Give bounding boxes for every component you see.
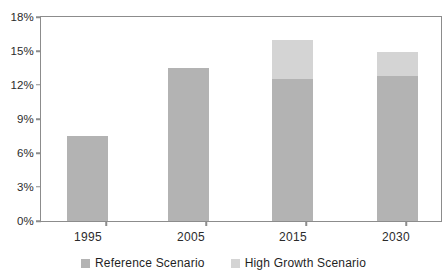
y-tick-label: 0% (17, 215, 34, 227)
bar-segment (377, 52, 418, 76)
legend-label: High Growth Scenario (245, 256, 366, 270)
legend: Reference Scenario High Growth Scenario (0, 256, 447, 270)
chart-screenshot: 18% 15% 12% 9% 6% 3% (0, 0, 447, 277)
y-tick-label: 6% (17, 147, 34, 159)
y-tick-label: 3% (17, 181, 34, 193)
bar-2005[interactable] (168, 68, 209, 221)
bar-segment (168, 68, 209, 221)
y-tick-mark (36, 118, 41, 120)
x-axis-label-2015: 2015 (279, 230, 307, 244)
x-tick-mark (405, 221, 407, 226)
y-tick-mark (36, 50, 41, 52)
y-tick-label: 9% (17, 113, 34, 125)
x-axis-label-2005: 2005 (177, 230, 205, 244)
x-tick-mark (105, 221, 107, 226)
bar-segment (377, 76, 418, 221)
bar-2030[interactable] (377, 52, 418, 221)
y-tick-label: 18% (10, 11, 34, 23)
y-tick-label: 12% (10, 79, 34, 91)
legend-swatch-icon (231, 259, 240, 268)
x-tick-mark (305, 221, 307, 226)
legend-item-reference-scenario[interactable]: Reference Scenario (81, 256, 205, 270)
y-tick-mark (36, 220, 41, 222)
bar-2015[interactable] (272, 40, 313, 221)
bar-1995[interactable] (67, 136, 108, 221)
plot-area: 18% 15% 12% 9% 6% 3% (40, 16, 442, 222)
legend-swatch-icon (81, 259, 90, 268)
y-tick-mark (36, 84, 41, 86)
x-tick-mark (205, 221, 207, 226)
y-tick-label: 15% (10, 45, 34, 57)
legend-label: Reference Scenario (95, 256, 205, 270)
bar-segment (272, 79, 313, 221)
x-axis-label-2030: 2030 (382, 230, 410, 244)
y-tick-mark (36, 186, 41, 188)
y-tick-mark (36, 152, 41, 154)
legend-item-high-growth-scenario[interactable]: High Growth Scenario (231, 256, 366, 270)
y-tick-mark (36, 16, 41, 18)
bar-segment (67, 136, 108, 221)
x-axis-label-1995: 1995 (74, 230, 102, 244)
bar-segment (272, 40, 313, 80)
plot-inner: 18% 15% 12% 9% 6% 3% (41, 17, 441, 221)
